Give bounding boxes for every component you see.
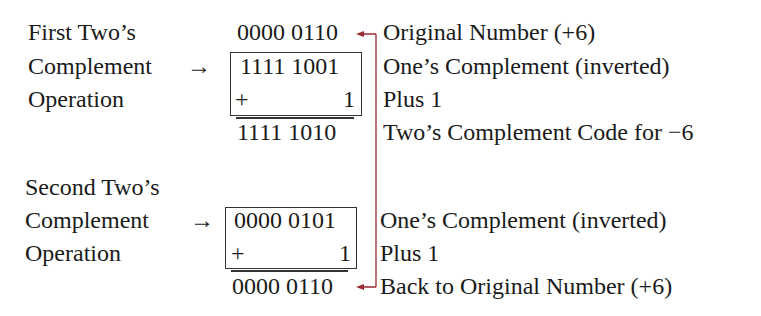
connector-line [362,34,376,287]
connector-arrowhead-bottom [356,284,364,290]
connector [0,0,761,316]
connector-arrowhead-top [356,31,364,37]
